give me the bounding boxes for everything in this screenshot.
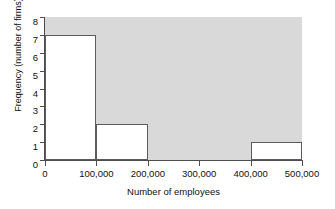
- x-axis-tick-mark: [251, 161, 252, 166]
- y-axis-tick-mark: [40, 142, 45, 143]
- y-axis-tick-label: 2: [21, 124, 38, 134]
- y-axis-tick-label: 4: [21, 89, 38, 99]
- histogram-bar: [45, 35, 96, 160]
- y-axis-tick-mark: [40, 89, 45, 90]
- x-axis-tick-label: 500,000: [272, 168, 332, 179]
- x-axis-tick-mark: [148, 161, 149, 166]
- x-axis-line: [44, 160, 303, 161]
- y-axis-tick-labels: 012345678: [21, 11, 38, 161]
- histogram-bar: [251, 142, 302, 160]
- y-axis-tick-mark: [40, 53, 45, 54]
- histogram-chart: Frequency (number of firms) 012345678 Nu…: [0, 0, 335, 209]
- x-axis-tick-mark: [45, 161, 46, 166]
- y-axis-tick-mark: [40, 124, 45, 125]
- y-axis-tick-label: 1: [21, 142, 38, 152]
- y-axis-tick-label: 7: [21, 35, 38, 45]
- y-axis-tick-mark: [40, 35, 45, 36]
- histogram-bar: [96, 124, 147, 160]
- plot-area: [45, 17, 302, 160]
- y-axis-tick-mark: [40, 106, 45, 107]
- x-axis-tick-mark: [302, 161, 303, 166]
- y-axis-tick-mark: [40, 17, 45, 18]
- y-axis-tick-label: 5: [21, 71, 38, 81]
- y-axis-tick-label: 8: [21, 17, 38, 27]
- x-axis-title: Number of employees: [45, 186, 302, 197]
- x-axis-tick-mark: [199, 161, 200, 166]
- y-axis-tick-label: 6: [21, 53, 38, 63]
- x-axis-tick-mark: [96, 161, 97, 166]
- y-axis-tick-mark: [40, 71, 45, 72]
- y-axis-tick-label: 3: [21, 106, 38, 116]
